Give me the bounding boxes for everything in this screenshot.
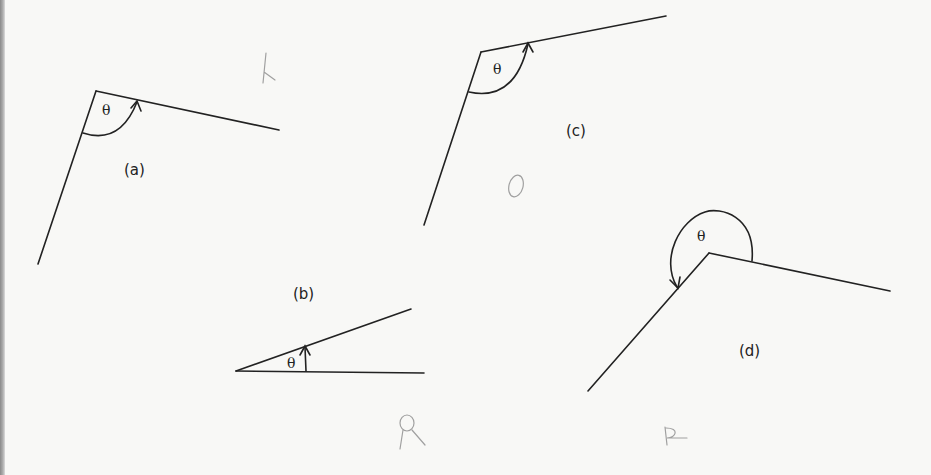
pencil-mark-a xyxy=(263,53,275,83)
angle-a-caption: (a) xyxy=(124,163,145,178)
angle-c-ray-right xyxy=(481,16,666,52)
angle-d-caption: (d) xyxy=(739,344,760,359)
angle-c-theta-label: θ xyxy=(493,62,501,76)
angle-d xyxy=(588,211,890,391)
angle-d-ray-lower xyxy=(588,253,709,391)
pencil-mark-c xyxy=(506,174,525,199)
angle-d-ray-right xyxy=(709,253,890,291)
angle-b-arc xyxy=(305,347,306,371)
angle-b-ray-upper xyxy=(236,309,411,371)
angle-diagram xyxy=(0,0,931,475)
angle-a-theta-label: θ xyxy=(102,103,110,117)
angle-b-ray-base xyxy=(236,371,424,373)
angle-b xyxy=(236,309,424,373)
angle-b-theta-label: θ xyxy=(287,356,295,370)
angle-c-ray-lower xyxy=(424,52,481,225)
angle-a-ray-lower xyxy=(38,91,96,264)
angle-d-arc xyxy=(671,211,753,287)
angle-c xyxy=(424,16,666,225)
angle-c-caption: (c) xyxy=(566,124,586,139)
angle-d-theta-label: θ xyxy=(697,229,705,243)
angle-a xyxy=(38,91,279,264)
pencil-mark-d xyxy=(665,427,687,445)
pencil-mark-b xyxy=(400,415,425,449)
angle-b-caption: (b) xyxy=(293,287,314,302)
